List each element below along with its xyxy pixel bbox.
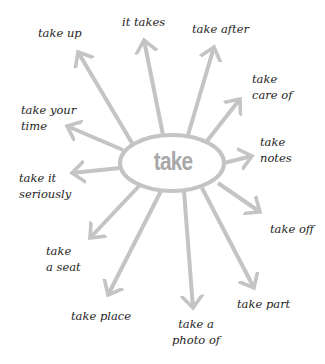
arrow-take-place	[108, 191, 161, 295]
label-take-a-photo-of: take a photo of	[172, 316, 220, 348]
center-word: take	[151, 146, 196, 177]
label-take-place: take place	[71, 308, 131, 324]
label-take-it-seriously: take it seriously	[19, 170, 71, 202]
arrow-it-takes	[144, 40, 163, 135]
arrow-take-notes	[224, 156, 252, 163]
label-take-up: take up	[38, 25, 82, 41]
arrow-take-off	[218, 183, 260, 212]
arrow-take-up	[78, 52, 132, 143]
arrow-take-a-seat	[90, 185, 140, 238]
label-take-a-seat: take a seat	[46, 243, 81, 275]
label-take-off: take off	[270, 221, 314, 237]
label-take-after: take after	[192, 21, 249, 37]
arrow-take-care-of	[207, 99, 240, 141]
label-take-care-of: take care of	[252, 71, 292, 103]
word-map-diagram: take take up it takes take after take ca…	[0, 0, 325, 364]
arrow-take-after	[188, 47, 214, 135]
label-it-takes: it takes	[122, 14, 165, 30]
arrow-take-a-photo-of	[184, 191, 193, 308]
arrow-take-it-seriously	[72, 168, 120, 173]
label-take-your-time: take your time	[21, 102, 76, 134]
label-take-part: take part	[237, 296, 290, 312]
label-take-notes: take notes	[260, 134, 292, 166]
